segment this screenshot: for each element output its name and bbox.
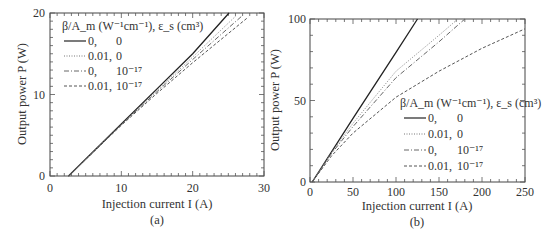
legend-eps: 0: [116, 34, 122, 48]
x-tick-label: 0: [307, 185, 313, 199]
y-tick-label: 100: [288, 12, 306, 26]
y-tick-labels-a: 0 10 20: [33, 6, 45, 183]
plot-frame-a: [50, 13, 264, 176]
legend-eps: 10⁻¹⁷: [457, 143, 483, 157]
legend-beta: 0.01,: [428, 159, 452, 173]
x-tick-label: 200: [473, 185, 491, 199]
legend-eps: 0: [457, 111, 463, 125]
legend-beta: 0,: [88, 34, 97, 48]
x-tick-label: 100: [387, 185, 405, 199]
panel-b: 0 50 100 150 200 250 0 50 100 Injection …: [268, 12, 541, 229]
x-tick-label: 10: [115, 181, 127, 195]
x-axis-label-a: Injection current I (A): [102, 197, 213, 211]
x-tick-label: 150: [430, 185, 448, 199]
legend-eps: 10⁻¹⁷: [457, 159, 483, 173]
legend-b: β/A_m (W⁻¹cm⁻¹), ε_s (cm³) 0, 0 0.01, 0 …: [400, 96, 541, 173]
legend-beta: 0.01,: [88, 79, 112, 93]
x-tick-label: 20: [187, 181, 199, 195]
y-axis-label-a: Output power P (W): [15, 43, 29, 145]
panel-label-a: (a): [150, 213, 164, 227]
y-tick-label: 0: [39, 169, 45, 183]
figure: 0 10 20 30 0 10 20 Injection current I (…: [0, 0, 549, 237]
y-tick-label: 10: [33, 88, 45, 102]
x-axis-label-b: Injection current I (A): [362, 199, 473, 213]
y-tick-label: 20: [33, 6, 45, 20]
legend-title: β/A_m (W⁻¹cm⁻¹), ε_s (cm³): [400, 96, 541, 110]
legend-eps: 0: [457, 127, 463, 141]
legend-beta: 0,: [88, 64, 97, 78]
legend-beta: 0,: [428, 143, 437, 157]
legend-eps: 10⁻¹⁷: [116, 64, 142, 78]
legend-a: β/A_m (W⁻¹cm⁻¹), ε_s (cm³) 0, 0 0.01, 0 …: [62, 19, 203, 93]
legend-beta: 0.01,: [428, 127, 452, 141]
x-tick-labels-a: 0 10 20 30: [47, 181, 270, 195]
legend-beta: 0.01,: [88, 49, 112, 63]
ticks-a: [50, 13, 264, 176]
panel-a: 0 10 20 30 0 10 20 Injection current I (…: [15, 6, 270, 227]
x-tick-label: 50: [347, 185, 359, 199]
panel-label-b: (b): [410, 215, 425, 229]
y-axis-label-b: Output power P (W): [268, 49, 282, 151]
x-tick-label: 30: [258, 181, 270, 195]
y-tick-label: 50: [294, 94, 306, 108]
x-tick-labels-b: 0 50 100 150 200 250: [307, 185, 534, 199]
y-tick-labels-b: 0 50 100: [288, 12, 306, 189]
legend-eps: 0: [116, 49, 122, 63]
y-tick-label: 0: [300, 175, 306, 189]
x-tick-label: 0: [47, 181, 53, 195]
legend-eps: 10⁻¹⁷: [116, 79, 142, 93]
x-tick-label: 250: [516, 185, 534, 199]
legend-beta: 0,: [428, 111, 437, 125]
legend-title: β/A_m (W⁻¹cm⁻¹), ε_s (cm³): [62, 19, 203, 33]
